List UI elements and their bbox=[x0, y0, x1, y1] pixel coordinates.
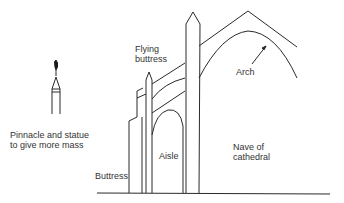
flying-buttress-label: Flying buttress bbox=[135, 44, 167, 64]
roof bbox=[199, 11, 297, 47]
buttress-label: Buttress bbox=[95, 171, 128, 181]
ground-line bbox=[97, 193, 330, 194]
aisle-label: Aisle bbox=[159, 151, 179, 161]
flying-buttress-arms bbox=[137, 63, 185, 113]
buttress bbox=[129, 88, 143, 193]
pinnacle-detail bbox=[52, 60, 60, 114]
arch-label: Arch bbox=[236, 67, 255, 77]
arrow-head-icon bbox=[262, 46, 266, 50]
pinnacle-label: Pinnacle and statue to give more mass bbox=[10, 130, 89, 150]
cathedral-diagram bbox=[0, 0, 344, 203]
nave-label: Nave of cathedral bbox=[233, 142, 270, 162]
nave-wall-pier bbox=[186, 12, 200, 193]
buttress-pinnacle bbox=[146, 72, 152, 193]
